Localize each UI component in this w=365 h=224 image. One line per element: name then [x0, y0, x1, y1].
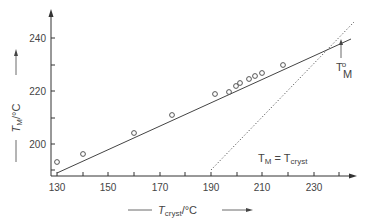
equality-line — [211, 22, 354, 170]
svg-text:Tcryst/°C: Tcryst/°C — [158, 204, 197, 218]
data-point — [213, 92, 218, 97]
x-tick-label: 170 — [152, 182, 169, 193]
y-tick-label: 200 — [29, 139, 46, 150]
arrow-up-icon — [339, 39, 343, 45]
x-title-sub: cryst — [165, 209, 183, 218]
data-point — [247, 77, 252, 82]
fit-line — [57, 39, 351, 173]
data-point — [260, 71, 265, 76]
data-point — [281, 63, 286, 68]
data-point — [238, 81, 243, 86]
chart: 200 220 240 130 150 170 190 210 230 Tcry… — [0, 0, 365, 224]
y-tick-label: 220 — [29, 86, 46, 97]
x-axis-title: Tcryst/°C — [128, 204, 253, 218]
y-title-rest: /°C — [10, 104, 22, 119]
equality-annotation: TM = Tcryst — [258, 152, 308, 166]
y-tick-label: 240 — [29, 33, 46, 44]
y-axis: 200 220 240 — [29, 9, 55, 176]
arrow-right-icon — [246, 208, 253, 212]
svg-text:TM/°C: TM/°C — [10, 104, 24, 133]
arrow-up-icon — [14, 49, 18, 56]
y-axis-title: TM/°C — [10, 49, 24, 162]
x-title-rest: /°C — [182, 204, 197, 216]
x-tick-label: 210 — [254, 182, 271, 193]
data-point — [253, 74, 258, 79]
data-point — [227, 90, 232, 95]
data-point — [170, 113, 175, 118]
data-points — [55, 63, 286, 165]
x-axis: 130 150 170 190 210 230 — [49, 172, 357, 193]
data-point — [55, 160, 60, 165]
data-point — [132, 131, 137, 136]
data-point — [81, 152, 86, 157]
x-tick-label: 190 — [203, 182, 220, 193]
x-tick-label: 230 — [306, 182, 323, 193]
x-tick-label: 150 — [100, 182, 117, 193]
x-tick-label: 130 — [49, 182, 66, 193]
svg-text:M: M — [343, 68, 352, 80]
